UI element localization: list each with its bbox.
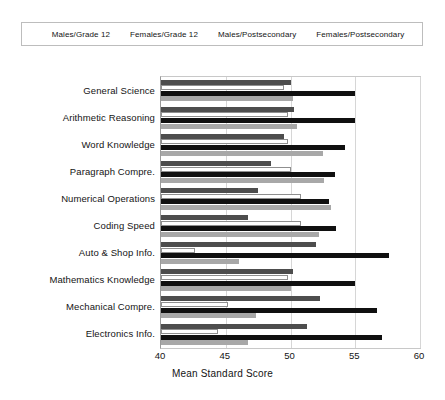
bar — [161, 161, 271, 166]
bar — [161, 313, 256, 318]
plot-area — [160, 76, 421, 349]
bar — [161, 340, 248, 345]
legend-swatch-males-postsecondary — [206, 30, 215, 39]
y-axis-label: Mathematics Knowledge — [49, 274, 155, 285]
bar — [161, 205, 331, 210]
bars-layer — [161, 77, 420, 348]
bar-group — [161, 134, 420, 156]
bar — [161, 242, 316, 247]
y-axis-label: Electronics Info. — [86, 328, 155, 339]
bar — [161, 248, 195, 253]
bar — [161, 335, 382, 340]
legend-label-females-grade-12: Females/Grade 12 — [130, 30, 198, 39]
legend-swatch-males-grade-12 — [40, 30, 49, 39]
bar — [161, 281, 355, 286]
bar — [161, 269, 293, 274]
bar-group — [161, 215, 420, 237]
y-axis-label: Numerical Operations — [61, 192, 155, 203]
bar — [161, 259, 239, 264]
bar-group — [161, 107, 420, 129]
bar-group — [161, 296, 420, 318]
bar-group — [161, 188, 420, 210]
legend-entry-females-grade-12: Females/Grade 12 — [118, 30, 198, 39]
bar — [161, 112, 288, 117]
gridline-60 — [420, 77, 421, 348]
legend-entry-females-postsecondary: Females/Postsecondary — [304, 30, 404, 39]
bar — [161, 91, 355, 96]
bar — [161, 221, 301, 226]
bar — [161, 178, 324, 183]
bar-group — [161, 161, 420, 183]
legend-label-males-grade-12: Males/Grade 12 — [52, 30, 110, 39]
legend-entry-males-grade-12: Males/Grade 12 — [40, 30, 110, 39]
bar — [161, 324, 307, 329]
bar — [161, 107, 294, 112]
bar — [161, 329, 218, 334]
y-axis-label: Paragraph Compre. — [70, 165, 155, 176]
y-axis-category-labels: General ScienceArithmetic ReasoningWord … — [0, 76, 155, 347]
bar — [161, 145, 345, 150]
bar — [161, 253, 389, 258]
legend-label-females-postsecondary: Females/Postsecondary — [316, 30, 404, 39]
x-tick-label: 45 — [219, 350, 230, 361]
x-tick-label: 60 — [414, 350, 425, 361]
bar — [161, 199, 329, 204]
bar — [161, 134, 284, 139]
x-axis-title: Mean Standard Score — [0, 368, 445, 379]
bar — [161, 172, 335, 177]
legend-swatch-females-postsecondary — [304, 30, 313, 39]
legend-entry-males-postsecondary: Males/Postsecondary — [206, 30, 296, 39]
x-axis-tick-labels: 4045505560 — [0, 350, 445, 364]
y-axis-label: Arithmetic Reasoning — [63, 111, 155, 122]
bar — [161, 151, 323, 156]
legend-label-males-postsecondary: Males/Postsecondary — [218, 30, 296, 39]
bar — [161, 194, 301, 199]
bar — [161, 80, 291, 85]
bar-group — [161, 80, 420, 102]
bar-group — [161, 242, 420, 264]
bar — [161, 139, 288, 144]
legend-swatch-females-grade-12 — [118, 30, 127, 39]
bar — [161, 308, 377, 313]
bar — [161, 118, 355, 123]
bar — [161, 85, 284, 90]
bar — [161, 226, 336, 231]
chart-legend: Males/Grade 12 Females/Grade 12 Males/Po… — [21, 22, 423, 46]
bar — [161, 232, 319, 237]
bar — [161, 215, 248, 220]
bar — [161, 96, 293, 101]
bar — [161, 302, 228, 307]
bar — [161, 124, 297, 129]
bar — [161, 167, 291, 172]
bar — [161, 296, 320, 301]
x-tick-label: 40 — [155, 350, 166, 361]
bar — [161, 275, 288, 280]
bar-group — [161, 324, 420, 346]
y-axis-label: Auto & Shop Info. — [79, 247, 155, 258]
y-axis-label: Mechanical Compre. — [66, 301, 155, 312]
bar — [161, 286, 291, 291]
y-axis-label: General Science — [83, 84, 155, 95]
bar-group — [161, 269, 420, 291]
bar — [161, 188, 258, 193]
x-tick-label: 55 — [349, 350, 360, 361]
y-axis-label: Coding Speed — [94, 220, 155, 231]
y-axis-label: Word Knowledge — [81, 138, 155, 149]
x-tick-label: 50 — [284, 350, 295, 361]
